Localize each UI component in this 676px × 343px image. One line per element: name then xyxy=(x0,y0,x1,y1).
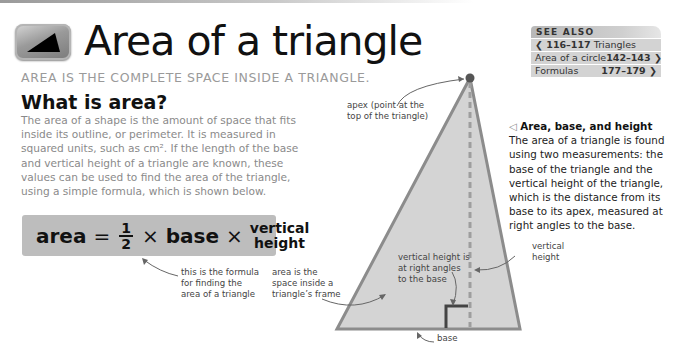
pointer-left-icon: ◁ xyxy=(509,120,517,132)
caption-title: Area, base, and height xyxy=(520,120,652,132)
vertical-height-note: vertical height xyxy=(532,241,564,263)
right-angle-note: vertical height is at right angles to th… xyxy=(398,252,470,285)
apex-dot xyxy=(466,74,475,83)
area-note: area is the space inside a triangle’s fr… xyxy=(272,267,341,300)
formula-note: this is the formula for finding the area… xyxy=(181,267,259,300)
formula-arrow xyxy=(144,260,178,276)
caption-body: The area of a triangle is found using tw… xyxy=(509,133,674,232)
base-note: base xyxy=(437,333,458,343)
apex-note: apex (point at the top of the triangle) xyxy=(347,100,428,122)
diagram-caption: ◁ Area, base, and height The area of a t… xyxy=(509,119,674,233)
